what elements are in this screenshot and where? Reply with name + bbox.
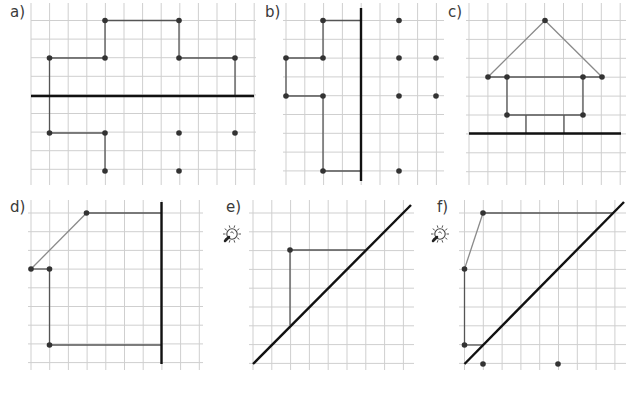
exercise-panel-c: c) <box>448 3 626 185</box>
exercise-label: a) <box>10 3 25 21</box>
grid-point <box>320 168 326 174</box>
grid-point <box>580 74 586 80</box>
exercise-label: d) <box>10 198 25 216</box>
grid <box>283 3 444 185</box>
grid-point <box>320 55 326 61</box>
grid-point <box>176 55 182 61</box>
grid-point <box>580 112 586 118</box>
figure-segment <box>488 21 545 78</box>
figure-segment <box>545 21 602 78</box>
grid-point <box>485 74 491 80</box>
grid-point <box>555 361 561 367</box>
lightbulb-hint-icon <box>223 225 241 242</box>
exercise-panel-f: f) <box>431 198 626 370</box>
grid-point <box>84 210 90 216</box>
symmetry-exercises-sheet: a) b) c) d) e) f) <box>0 0 626 395</box>
lightbulb-hint-icon <box>431 225 449 242</box>
grid-point <box>433 93 439 99</box>
grid-point <box>102 168 108 174</box>
symmetry-axis-diagonal <box>465 202 625 364</box>
grid-point <box>176 168 182 174</box>
grid-point <box>480 361 486 367</box>
grid-point <box>102 18 108 24</box>
grid-point <box>462 342 468 348</box>
grid-point <box>462 266 468 272</box>
exercise-label: b) <box>265 3 280 21</box>
grid-point <box>102 130 108 136</box>
grid-point <box>396 168 402 174</box>
grid-point <box>47 342 53 348</box>
figure-segment <box>31 213 87 269</box>
exercise-label: e) <box>226 198 241 216</box>
grid-point <box>287 247 293 253</box>
exercise-panel-a: a) <box>10 3 256 185</box>
exercise-panel-b: b) <box>265 3 444 185</box>
grid-point <box>176 18 182 24</box>
exercise-panel-e: e) <box>223 198 414 370</box>
grid-point <box>47 266 53 272</box>
grid-point <box>47 55 53 61</box>
grid-point <box>504 112 510 118</box>
grid-point <box>283 93 289 99</box>
grid-point <box>320 93 326 99</box>
grid-point <box>283 55 289 61</box>
grid-point <box>232 55 238 61</box>
grid-point <box>480 210 486 216</box>
grid-point <box>232 130 238 136</box>
exercise-label: c) <box>448 3 462 21</box>
grid-point <box>542 18 548 24</box>
figure-segment <box>465 213 484 269</box>
grid-point <box>504 74 510 80</box>
grid-point <box>396 93 402 99</box>
grid-point <box>599 74 605 80</box>
grid-point <box>102 55 108 61</box>
grid-point <box>176 130 182 136</box>
grid <box>31 3 256 185</box>
exercise-label: f) <box>437 198 448 216</box>
exercise-panel-d: d) <box>10 198 203 370</box>
grid-point <box>433 55 439 61</box>
grid <box>466 3 626 185</box>
grid-point <box>320 18 326 24</box>
symmetry-axis-diagonal <box>253 205 411 364</box>
grid-point <box>47 130 53 136</box>
grid-point <box>396 18 402 24</box>
grid-point <box>396 55 402 61</box>
grid-point <box>28 266 34 272</box>
